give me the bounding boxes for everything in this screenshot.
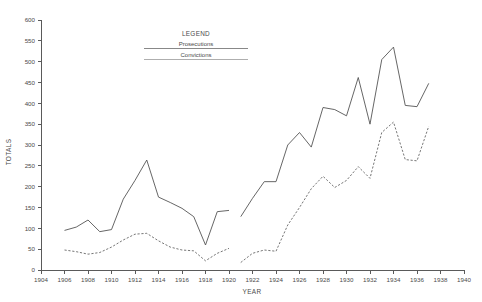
legend-entry-label: Prosecutions — [179, 41, 214, 47]
y-tick-label: 100 — [25, 225, 36, 232]
x-tick-label: 1908 — [81, 276, 95, 283]
x-tick-label: 1930 — [340, 276, 354, 283]
y-tick-label: 400 — [25, 100, 36, 107]
x-tick-label: 1940 — [457, 276, 471, 283]
x-tick-label: 1928 — [316, 276, 330, 283]
y-tick-label: 0 — [32, 266, 36, 273]
series-line-prosecutions — [241, 47, 429, 217]
x-tick-label: 1936 — [410, 276, 424, 283]
series-line-prosecutions — [65, 160, 230, 245]
x-tick-label: 1934 — [387, 276, 401, 283]
y-tick-label: 500 — [25, 58, 36, 65]
series-line-convictions — [65, 233, 230, 260]
x-tick-label: 1924 — [269, 276, 283, 283]
y-tick-label: 250 — [25, 162, 36, 169]
series-line-convictions — [241, 122, 429, 262]
line-chart: 050100150200250300350400450500550600 190… — [0, 0, 482, 302]
y-tick-label: 150 — [25, 204, 36, 211]
y-tick-label: 50 — [28, 245, 35, 252]
chart-legend: LEGENDProsecutionsConvictions — [144, 30, 248, 60]
y-axis: 050100150200250300350400450500550600 — [25, 16, 41, 273]
x-tick-label: 1918 — [199, 276, 213, 283]
x-tick-label: 1912 — [128, 276, 142, 283]
y-tick-label: 600 — [25, 16, 36, 23]
legend-entry-label: Convictions — [180, 52, 211, 58]
x-tick-label: 1920 — [222, 276, 236, 283]
y-tick-label: 300 — [25, 141, 36, 148]
x-axis-title: YEAR — [242, 288, 261, 295]
x-tick-label: 1938 — [434, 276, 448, 283]
x-tick-label: 1910 — [105, 276, 119, 283]
x-tick-label: 1906 — [58, 276, 72, 283]
chart-container: 050100150200250300350400450500550600 190… — [0, 0, 482, 302]
x-tick-label: 1932 — [363, 276, 377, 283]
x-tick-label: 1904 — [34, 276, 48, 283]
y-tick-label: 200 — [25, 183, 36, 190]
y-tick-label: 550 — [25, 37, 36, 44]
y-tick-label: 450 — [25, 79, 36, 86]
x-tick-label: 1922 — [246, 276, 260, 283]
y-axis-title: TOTALS — [5, 139, 12, 166]
x-axis: 1904190619081910191219141916191819201922… — [34, 270, 471, 283]
y-tick-label: 350 — [25, 120, 36, 127]
data-series-group — [65, 47, 429, 262]
x-tick-label: 1926 — [293, 276, 307, 283]
x-tick-label: 1914 — [152, 276, 166, 283]
x-tick-label: 1916 — [175, 276, 189, 283]
legend-title: LEGEND — [182, 30, 210, 37]
